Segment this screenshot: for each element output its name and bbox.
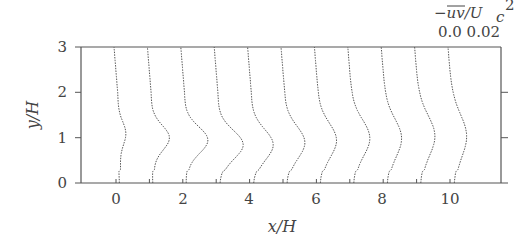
y-axis-ticks [75,47,81,183]
y-tick-label: 2 [57,83,67,101]
x-tick-label: 8 [377,190,387,208]
y-axis-title: y/H [23,100,42,130]
x-tick-labels: 0 2 4 6 8 10 [111,190,459,208]
profile-line [281,47,305,183]
profile-line [147,47,169,183]
x-axis-title: x/H [268,217,297,236]
scale-annotation: −uv/U c 2 0.0 0.02 [434,0,515,41]
profile-line [348,47,370,183]
right-axis-ticks [501,92,508,137]
x-tick-label: 2 [178,190,188,208]
y-tick-label: 1 [57,129,67,147]
x-tick-label: 6 [311,190,321,208]
scale-quantity-label: −uv/U [434,4,484,22]
x-tick-label: 0 [111,190,121,208]
profile-series-group [114,47,467,183]
x-tick-label: 10 [440,190,459,208]
profile-line [248,47,274,183]
y-tick-label: 3 [57,38,67,56]
y-tick-label: 0 [57,174,67,192]
y-tick-labels: 3 2 1 0 [57,38,67,192]
profile-line [314,47,336,183]
scale-range-labels: 0.0 0.02 [438,23,500,41]
profile-line [381,47,401,183]
profile-line [114,47,126,183]
profile-line [181,47,208,183]
profile-line [415,47,435,183]
x-tick-label: 4 [244,190,254,208]
profile-line [214,47,243,183]
plot-frame [81,47,508,183]
profile-line [448,47,467,183]
scale-quantity-superscript: 2 [505,0,515,14]
chart: 3 2 1 0 0 2 4 6 8 10 x/H y/H −uv/U c 2 0… [0,0,524,247]
